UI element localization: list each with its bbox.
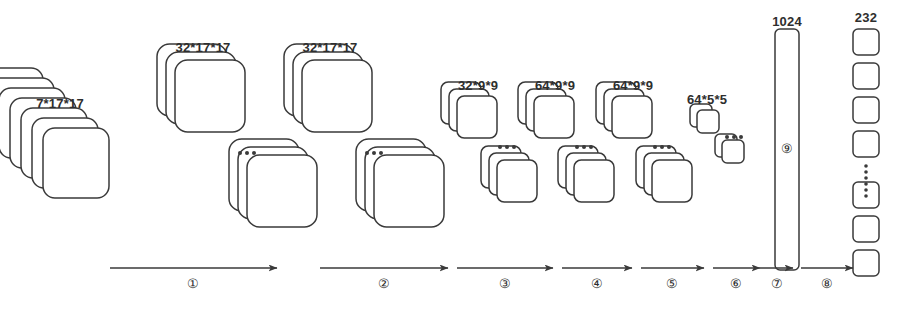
ellipsis-dot <box>498 145 502 149</box>
layer-label-conv4: 64*9*9 <box>613 78 653 93</box>
ellipsis-dot <box>245 151 249 155</box>
layer-stack-top-pool2 <box>690 104 719 133</box>
output-cell <box>853 29 879 55</box>
architecture-diagram: 7*17*1732*17*1732*17*1732*9*964*9*964*9*… <box>0 0 910 312</box>
ellipsis-dot <box>365 151 369 155</box>
layer-stack-bottom-conv4 <box>636 146 692 202</box>
step-number-7: ⑦ <box>771 277 783 290</box>
layer-stack-top-conv2 <box>284 44 372 132</box>
ellipsis-dot <box>512 145 516 149</box>
shapes-group <box>0 29 879 276</box>
feature-map-card <box>43 128 109 198</box>
step-number-6: ⑥ <box>730 277 742 290</box>
feature-map-card <box>247 155 317 227</box>
layer-stack-bottom-conv1 <box>229 139 317 227</box>
fc-step-marker: ⑨ <box>780 142 794 155</box>
layer-label-conv1: 32*17*17 <box>175 40 230 55</box>
ellipsis-conv1 <box>238 151 256 155</box>
ellipsis-dot <box>238 151 242 155</box>
layer-label-pool2: 64*5*5 <box>687 92 727 107</box>
layer-label-pool1: 32*9*9 <box>458 78 498 93</box>
feature-map-card <box>302 60 372 132</box>
ellipsis-dot <box>575 145 579 149</box>
ellipsis-dot <box>864 176 868 180</box>
ellipsis-dot <box>864 170 868 174</box>
ellipsis-dot <box>732 135 736 139</box>
ellipsis-dot <box>372 151 376 155</box>
ellipsis-dot <box>864 164 868 168</box>
feature-map-card <box>574 160 614 202</box>
ellipsis-pool2 <box>725 135 743 139</box>
step-number-5: ⑤ <box>666 277 678 290</box>
output-cell <box>853 97 879 123</box>
output-cell <box>853 63 879 89</box>
ellipsis-dot <box>660 145 664 149</box>
ellipsis-dot <box>582 145 586 149</box>
layer-stack-bottom-conv2 <box>356 139 444 227</box>
feature-map-card <box>374 155 444 227</box>
ellipsis-dot <box>864 188 868 192</box>
ellipsis-pool1 <box>498 145 516 149</box>
ellipsis-dot <box>653 145 657 149</box>
output-cell <box>853 250 879 276</box>
feature-map-card <box>534 96 574 138</box>
diagram-canvas <box>0 0 910 312</box>
layer-label-conv2: 32*17*17 <box>302 40 357 55</box>
ellipsis-conv4 <box>653 145 671 149</box>
ellipsis-dot <box>505 145 509 149</box>
output-cell <box>853 216 879 242</box>
step-number-1: ① <box>187 277 199 290</box>
step-number-4: ④ <box>591 277 603 290</box>
feature-map-card <box>697 110 719 133</box>
ellipsis-dot <box>252 151 256 155</box>
feature-map-card <box>612 96 652 138</box>
step-number-8: ⑧ <box>821 277 833 290</box>
ellipsis-dot <box>667 145 671 149</box>
output-cell <box>853 131 879 157</box>
feature-map-card <box>652 160 692 202</box>
ellipsis-dot <box>379 151 383 155</box>
ellipsis-conv2 <box>365 151 383 155</box>
ellipsis-dot <box>864 182 868 186</box>
feature-map-card <box>722 140 744 163</box>
layer-stack-top-conv1 <box>157 44 245 132</box>
layer-label-input: 7*17*17 <box>36 96 84 111</box>
ellipsis-dot <box>589 145 593 149</box>
feature-map-card <box>497 160 537 202</box>
ellipsis-conv3 <box>575 145 593 149</box>
ellipsis-dot <box>739 135 743 139</box>
layer-stack-input <box>0 68 109 198</box>
step-number-2: ② <box>378 277 390 290</box>
output-layer-label: 232 <box>855 10 877 25</box>
fc-layer-label: 1024 <box>772 14 802 29</box>
layer-label-conv3: 64*9*9 <box>535 78 575 93</box>
layer-stack-bottom-conv3 <box>558 146 614 202</box>
step-number-3: ③ <box>499 277 511 290</box>
ellipsis-dot <box>864 194 868 198</box>
ellipsis-dot <box>725 135 729 139</box>
feature-map-card <box>175 60 245 132</box>
layer-stack-bottom-pool1 <box>481 146 537 202</box>
feature-map-card <box>457 96 497 138</box>
